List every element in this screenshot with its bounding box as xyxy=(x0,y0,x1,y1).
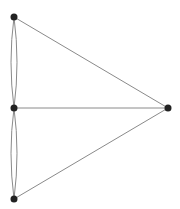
node-a xyxy=(11,14,18,21)
graph-diagram xyxy=(0,0,180,209)
edge-a-b xyxy=(11,17,14,108)
edge-c-d xyxy=(14,108,168,199)
node-b xyxy=(11,105,18,112)
edge-b-c xyxy=(11,108,14,199)
edge-b-c xyxy=(14,108,17,199)
edge-a-b xyxy=(14,17,17,108)
graph-canvas xyxy=(0,0,180,209)
node-c xyxy=(11,196,18,203)
edge-a-d xyxy=(14,17,168,108)
node-d xyxy=(165,105,172,112)
edges-layer xyxy=(11,17,168,199)
